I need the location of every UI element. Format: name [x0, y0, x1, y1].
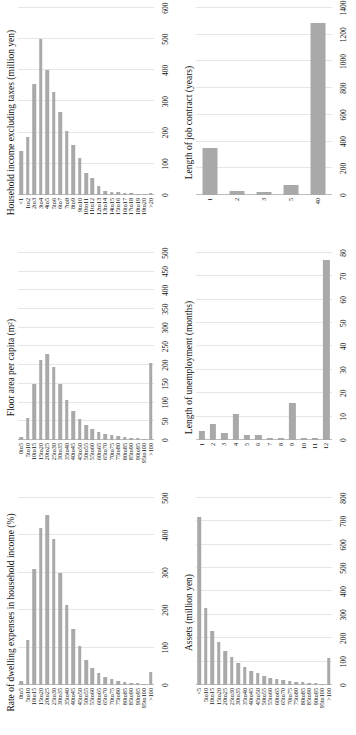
x-axis-tick-label: 350	[162, 303, 170, 314]
bar	[32, 569, 36, 685]
bar	[97, 673, 101, 685]
bar	[78, 419, 82, 440]
gridline	[18, 327, 154, 328]
x-axis-tick-label: 100	[162, 158, 170, 169]
bar	[32, 84, 36, 195]
gridline	[196, 299, 332, 300]
panel-title: Length of unemployment (months)	[184, 249, 194, 486]
gridline	[196, 544, 332, 545]
category-label: 10	[301, 440, 307, 449]
x-axis-tick-label: 300	[162, 322, 170, 333]
plot-area: 01002003004005000to55to1010to1515to2020t…	[18, 494, 154, 731]
x-axis-tick-label: 500	[162, 247, 170, 258]
panel-household-income: Household income excluding taxes (millio…	[0, 0, 178, 245]
bar	[256, 673, 260, 685]
bar	[32, 384, 36, 440]
x-axis-tick-label: 500	[340, 563, 348, 574]
x-axis-tick-label: 200	[162, 127, 170, 138]
x-axis-tick-label: 200	[340, 163, 348, 174]
panel-title: Rate of dwelling expenses in household i…	[6, 494, 16, 731]
gridline	[196, 637, 332, 638]
x-axis-tick-label: 500	[162, 492, 170, 503]
bar	[221, 433, 227, 440]
category-label: 5	[288, 195, 294, 201]
bar	[230, 657, 234, 685]
bar	[233, 414, 239, 440]
panel-title: Household income excluding taxes (millio…	[6, 4, 16, 241]
x-axis-tick-label: 20	[340, 390, 348, 398]
bar	[223, 651, 227, 685]
category-label: 6	[255, 440, 261, 446]
gridline	[196, 346, 332, 347]
bar	[84, 660, 88, 685]
axis-area: 01002003004005000to55to1010to1515to2020t…	[18, 498, 154, 685]
bar	[52, 92, 56, 195]
panel-length-of-unemployment: Length of unemployment (months) 01020304…	[178, 245, 356, 490]
x-axis-tick-label: 0	[162, 193, 170, 197]
bar	[19, 151, 23, 195]
x-axis-tick-label: 70	[340, 273, 348, 281]
bar	[71, 145, 75, 195]
x-axis-tick-label: 600	[162, 2, 170, 13]
x-axis-tick-label: 0	[162, 438, 170, 442]
category-label: 2	[234, 195, 240, 201]
x-axis-tick-label: 50	[162, 418, 170, 426]
bar	[284, 185, 299, 195]
bar	[45, 515, 49, 685]
gridline	[196, 252, 332, 253]
x-axis-tick-label: 400	[162, 530, 170, 541]
x-axis-tick-label: 200	[162, 360, 170, 371]
x-axis-tick-label: 80	[340, 249, 348, 257]
x-axis-tick-label: 800	[340, 83, 348, 94]
gridline	[196, 614, 332, 615]
bar	[71, 411, 75, 440]
gridline	[196, 322, 332, 323]
axis-area: 0100200300400500600700800<55to1010to1515…	[196, 498, 332, 685]
x-axis-tick-label: 400	[340, 136, 348, 147]
axis-area: 0100200300400500600<11to22to33to44to55to…	[18, 8, 154, 195]
category-label: 1	[206, 195, 212, 201]
category-label: 11	[312, 440, 318, 449]
gridline	[196, 567, 332, 568]
x-axis-tick-label: 600	[340, 109, 348, 120]
x-axis-tick-label: 30	[340, 366, 348, 374]
axis-area: 0501001502002503003504004505000to55to101…	[18, 253, 154, 440]
category-label: 8	[278, 440, 284, 446]
gridline	[18, 346, 154, 347]
bar	[91, 178, 95, 195]
plot-area: 0200400600800100012001400123540	[196, 4, 332, 241]
category-label: 4	[233, 440, 239, 446]
x-axis-tick-label: 200	[162, 605, 170, 616]
bar	[199, 431, 205, 440]
x-axis-tick-label: 100	[340, 656, 348, 667]
x-axis-tick-label: 100	[162, 642, 170, 653]
bar	[52, 367, 56, 440]
bar	[45, 70, 49, 195]
axis-area: 0200400600800100012001400123540	[196, 8, 332, 195]
bar	[249, 671, 253, 685]
panel-title: Assets (million yen)	[184, 494, 194, 731]
bar	[65, 131, 69, 195]
x-axis-tick-label: 1200	[340, 27, 348, 42]
gridline	[196, 392, 332, 393]
x-axis-tick-label: 400	[162, 285, 170, 296]
bar	[26, 640, 30, 685]
bar	[243, 667, 247, 685]
category-label: 5	[244, 440, 250, 446]
x-axis-tick-label: 0	[340, 683, 348, 687]
gridline	[196, 520, 332, 521]
bar	[202, 148, 217, 195]
bar	[197, 517, 201, 685]
bar	[78, 646, 82, 685]
x-axis-tick-label: 300	[162, 567, 170, 578]
x-axis-tick-label: 800	[340, 492, 348, 503]
figure-container: Rate of dwelling expenses in household i…	[0, 0, 356, 735]
bar	[323, 260, 329, 440]
x-axis-tick-label: 0	[340, 438, 348, 442]
bar	[289, 403, 295, 440]
category-label: >20	[148, 195, 154, 208]
bar	[39, 360, 43, 440]
bar	[91, 668, 95, 685]
bar	[97, 186, 101, 195]
bar	[262, 676, 266, 685]
